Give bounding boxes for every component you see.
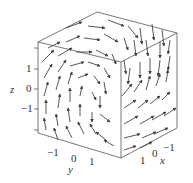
vector-arrow bbox=[44, 118, 46, 130]
vector-arrow bbox=[128, 68, 130, 84]
vector-arrow bbox=[128, 26, 138, 38]
vector-arrow bbox=[122, 84, 132, 96]
vector-arrow bbox=[146, 76, 150, 90]
vector-arrow bbox=[66, 126, 72, 138]
vector-arrow bbox=[168, 56, 170, 70]
vector-arrow bbox=[162, 92, 170, 100]
vector-arrow bbox=[88, 26, 105, 28]
z-axis-label: z bbox=[10, 84, 14, 95]
vector-arrow bbox=[166, 70, 168, 82]
vector-arrow bbox=[150, 96, 160, 104]
vector-arrow bbox=[90, 124, 96, 134]
vector-arrow bbox=[96, 132, 106, 140]
vector-arrow bbox=[138, 100, 148, 108]
x-tick-1: 1 bbox=[140, 155, 146, 166]
vector-arrow bbox=[162, 30, 164, 46]
vector-arrow bbox=[104, 34, 118, 42]
vector-arrow bbox=[66, 22, 82, 28]
vector-arrow bbox=[56, 114, 58, 126]
vector-arrow bbox=[78, 74, 88, 78]
vector-arrow bbox=[134, 40, 136, 56]
vector-arrow bbox=[56, 76, 60, 90]
vector-arrow bbox=[84, 38, 100, 40]
y-axis-label: y bbox=[68, 164, 73, 175]
vector-arrow bbox=[134, 80, 142, 92]
y-tick-neg1: −1 bbox=[47, 147, 59, 158]
vector-arrow bbox=[68, 72, 72, 84]
vector-arrow bbox=[124, 146, 136, 150]
vector-arrow bbox=[154, 128, 168, 134]
vector-arrow bbox=[100, 114, 110, 122]
x-tick-neg1: −1 bbox=[163, 142, 175, 153]
vector-arrow bbox=[58, 94, 60, 108]
vector-arrow bbox=[88, 62, 100, 66]
vector-arrow bbox=[94, 76, 100, 84]
vector-arrow bbox=[124, 38, 128, 50]
vector-arrow bbox=[104, 140, 114, 146]
z-tick-neg1: −1 bbox=[21, 103, 33, 114]
vector-arrow bbox=[140, 116, 154, 124]
vector-arrow bbox=[78, 122, 84, 134]
vector-arrow bbox=[124, 60, 126, 74]
z-tick-1: 1 bbox=[26, 63, 32, 74]
x-axis-label: x bbox=[160, 155, 165, 166]
z-tick-0: 0 bbox=[26, 83, 32, 94]
vector-arrow bbox=[124, 134, 140, 138]
vector-arrow bbox=[142, 132, 156, 138]
vector-arrow bbox=[80, 86, 82, 96]
vector-arrow bbox=[152, 112, 166, 120]
vector-arrow bbox=[104, 82, 106, 94]
vector-arrow bbox=[124, 100, 136, 108]
vector-arrow bbox=[42, 50, 54, 62]
x-tick-0: 0 bbox=[152, 148, 158, 159]
vector-arrow bbox=[96, 50, 108, 56]
vector-arrows bbox=[42, 20, 176, 150]
vector-arrow bbox=[68, 108, 70, 122]
vector-arrow bbox=[92, 92, 96, 100]
vector-arrow bbox=[140, 142, 152, 148]
vector-arrow bbox=[58, 48, 72, 56]
vector-arrow bbox=[158, 60, 160, 76]
vector-arrow bbox=[168, 40, 170, 54]
z-axis-ticks bbox=[34, 48, 38, 130]
vector-arrow bbox=[66, 36, 80, 42]
vector-arrow bbox=[58, 60, 66, 72]
vector-arrow bbox=[104, 68, 110, 78]
vector-arrow bbox=[70, 62, 84, 66]
vector-arrow bbox=[124, 116, 138, 124]
vector-arrow bbox=[140, 28, 142, 44]
y-tick-1: 1 bbox=[89, 156, 95, 167]
vector-arrow bbox=[44, 82, 48, 96]
vector-arrow bbox=[44, 64, 52, 78]
vector-arrow bbox=[108, 20, 124, 26]
vector-arrow bbox=[112, 54, 116, 64]
